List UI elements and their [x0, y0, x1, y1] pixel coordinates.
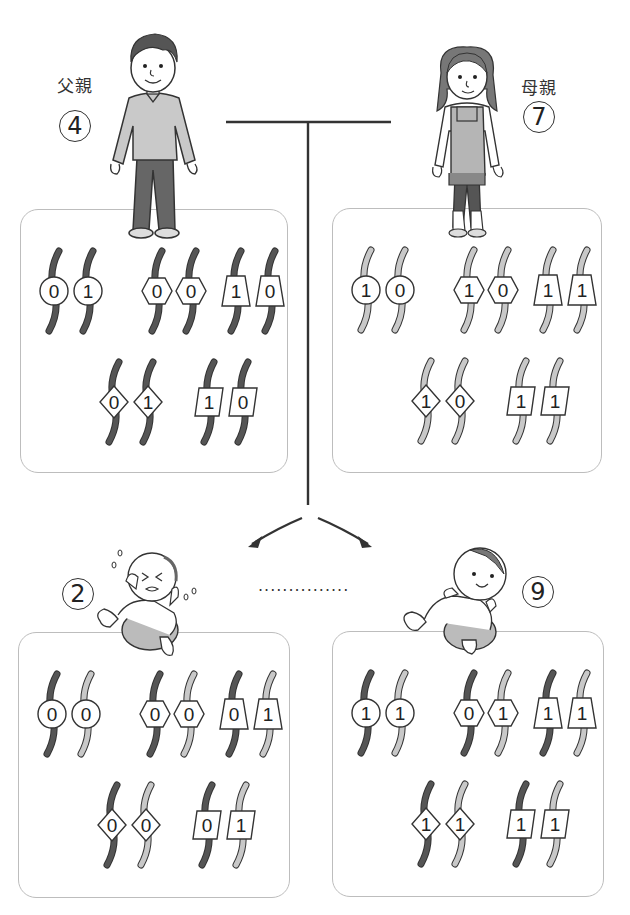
gene-value: 0	[455, 391, 466, 412]
gene-value: 1	[236, 815, 247, 836]
gene-value: 0	[464, 703, 475, 724]
gene-value: 1	[498, 703, 509, 724]
chromosome-pair-parallelogram: 01	[193, 785, 255, 865]
gene-value: 0	[107, 815, 118, 836]
chromosome-pair-hexagon: 01	[454, 673, 518, 753]
gene-value: 1	[204, 392, 215, 413]
gene-value: 1	[83, 281, 94, 302]
gene-value: 0	[202, 815, 213, 836]
chromosome-pair-hexagon: 00	[142, 251, 206, 331]
chromosome-pair-hexagon: 10	[454, 250, 518, 330]
gene-value: 1	[577, 280, 588, 301]
gene-value: 1	[543, 280, 554, 301]
father-label: 父親	[57, 72, 93, 97]
gene-value: 0	[498, 280, 509, 301]
chromosome-pair-parallelogram: 10	[195, 362, 257, 442]
child-b-number-badge: 9	[522, 576, 554, 608]
gene-value: 1	[231, 281, 242, 302]
gene-value: 1	[361, 703, 372, 724]
gene-value: 1	[455, 814, 466, 835]
chromosome-pair-diamond: 01	[100, 362, 162, 442]
chromosome-pair-trapezoid: 11	[534, 250, 596, 330]
chromosome-pair-diamond: 10	[412, 361, 474, 441]
ellipsis-dots: ...............	[258, 576, 349, 595]
father-number-badge: 4	[59, 110, 91, 142]
gene-value: 0	[47, 704, 58, 725]
father-pairs: 0100100110	[20, 209, 288, 473]
gene-value: 0	[49, 281, 60, 302]
chromosome-pair-circle: 00	[38, 674, 100, 754]
chromosome-pair-trapezoid: 10	[222, 251, 284, 331]
gene-value: 0	[81, 704, 92, 725]
mother-label: 母親	[521, 74, 557, 99]
gene-value: 0	[186, 281, 197, 302]
chromosome-pair-circle: 01	[40, 251, 102, 331]
child-b-pairs: 1101111111	[332, 631, 604, 897]
chromosome-pair-circle: 11	[352, 673, 414, 753]
gene-value: 1	[421, 814, 432, 835]
gene-value: 1	[143, 392, 154, 413]
gene-value: 1	[361, 280, 372, 301]
gene-value: 0	[184, 704, 195, 725]
gene-value: 1	[263, 704, 274, 725]
chromosome-pair-diamond: 00	[98, 785, 160, 865]
gene-value: 0	[229, 704, 240, 725]
gene-value: 0	[238, 392, 249, 413]
chromosome-pair-diamond: 11	[412, 784, 474, 864]
gene-value: 0	[395, 280, 406, 301]
gene-value: 1	[550, 814, 561, 835]
gene-value: 1	[464, 280, 475, 301]
chromosome-pair-parallelogram: 11	[507, 361, 569, 441]
gene-value: 1	[421, 391, 432, 412]
chromosome-pair-trapezoid: 01	[220, 674, 282, 754]
gene-value: 1	[516, 391, 527, 412]
gene-value: 0	[152, 281, 163, 302]
chromosome-pair-hexagon: 00	[140, 674, 204, 754]
child-a-pairs: 0000010001	[18, 632, 290, 898]
gene-value: 1	[543, 703, 554, 724]
gene-value: 1	[395, 703, 406, 724]
child-a-number-badge: 2	[62, 578, 94, 610]
mother-pairs: 1010111011	[332, 208, 602, 473]
chromosome-pair-parallelogram: 11	[507, 784, 569, 864]
gene-value: 0	[109, 392, 120, 413]
gene-value: 1	[550, 391, 561, 412]
gene-value: 0	[265, 281, 276, 302]
gene-value: 0	[141, 815, 152, 836]
chromosome-pair-circle: 10	[352, 250, 414, 330]
gene-value: 1	[516, 814, 527, 835]
gene-value: 0	[150, 704, 161, 725]
chromosome-pair-trapezoid: 11	[534, 673, 596, 753]
gene-value: 1	[577, 703, 588, 724]
mother-number-badge: 7	[523, 101, 555, 133]
